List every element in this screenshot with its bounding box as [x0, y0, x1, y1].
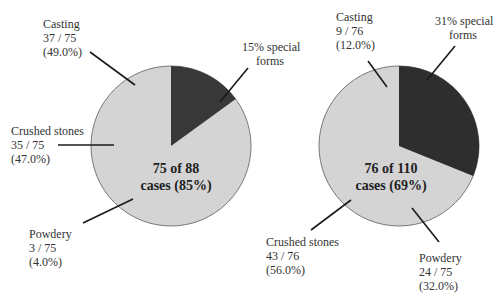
left-crushed-label: Crushed stones 35 / 75 (47.0%)	[11, 124, 84, 166]
left-center-line2: cases (85%)	[131, 177, 221, 194]
right-powdery-name: Powdery	[419, 251, 462, 265]
left-special-forms-label: 15% special forms	[242, 40, 298, 68]
left-casting-percent: (49.0%)	[43, 45, 82, 59]
right-special-line2: forms	[435, 28, 491, 42]
right-casting-name: Casting	[336, 10, 375, 24]
right-powdery-label: Powdery 24 / 75 (32.0%)	[419, 251, 462, 293]
left-powdery-name: Powdery	[29, 227, 72, 241]
right-casting-ratio: 9 / 76	[336, 24, 375, 38]
right-crushed-percent: (56.0%)	[266, 263, 339, 277]
right-special-leader	[427, 46, 455, 80]
left-casting-ratio: 37 / 75	[43, 31, 82, 45]
right-center-line2: cases (69%)	[346, 177, 436, 194]
left-powdery-percent: (4.0%)	[29, 255, 72, 269]
left-powdery-label: Powdery 3 / 75 (4.0%)	[29, 227, 72, 269]
left-center-line1: 75 of 88	[131, 160, 221, 177]
left-pie	[91, 66, 251, 226]
left-casting-leader	[90, 52, 135, 85]
left-crushed-percent: (47.0%)	[11, 152, 84, 166]
right-crushed-leader	[311, 200, 351, 230]
left-powdery-ratio: 3 / 75	[29, 241, 72, 255]
left-crushed-ratio: 35 / 75	[11, 138, 84, 152]
left-center-label: 75 of 88 cases (85%)	[131, 160, 221, 194]
right-pie	[319, 66, 479, 226]
right-crushed-name: Crushed stones	[266, 235, 339, 249]
right-special-line1: 31% special	[435, 14, 491, 28]
right-crushed-label: Crushed stones 43 / 76 (56.0%)	[266, 235, 339, 277]
right-powdery-percent: (32.0%)	[419, 279, 462, 293]
right-center-line1: 76 of 110	[346, 160, 436, 177]
right-crushed-ratio: 43 / 76	[266, 249, 339, 263]
left-casting-name: Casting	[43, 17, 82, 31]
right-special-forms-label: 31% special forms	[435, 14, 491, 42]
right-casting-percent: (12.0%)	[336, 38, 375, 52]
right-powdery-ratio: 24 / 75	[419, 265, 462, 279]
left-crushed-name: Crushed stones	[11, 124, 84, 138]
left-casting-label: Casting 37 / 75 (49.0%)	[43, 17, 82, 59]
left-special-line2: forms	[242, 54, 298, 68]
left-special-line1: 15% special	[242, 40, 298, 54]
right-casting-label: Casting 9 / 76 (12.0%)	[336, 10, 375, 52]
right-center-label: 76 of 110 cases (69%)	[346, 160, 436, 194]
